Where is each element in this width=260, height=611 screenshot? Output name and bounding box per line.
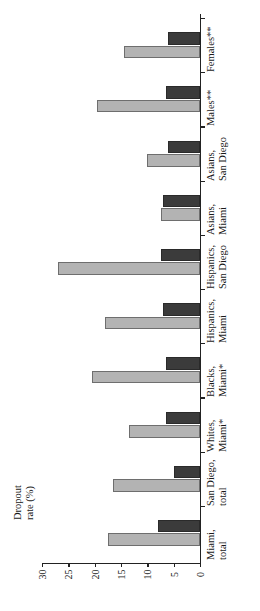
bar-light xyxy=(97,100,200,113)
value-tick-label: 10 xyxy=(142,564,153,586)
bar-light xyxy=(124,46,200,59)
bar-light xyxy=(147,154,200,167)
bar-dark xyxy=(166,412,200,425)
bar-dark xyxy=(166,357,200,370)
value-tick-label: 25 xyxy=(63,564,74,586)
chart-figure: 302520151050 Miami, totalSan Diego, tota… xyxy=(0,0,260,611)
value-tick-label: 5 xyxy=(168,564,179,586)
bar-dark xyxy=(161,249,201,262)
bar-light xyxy=(92,371,200,384)
value-axis-title: Dropout rate (%) xyxy=(12,434,36,520)
value-tick-label: 15 xyxy=(116,564,127,586)
category-label: Females** xyxy=(205,0,217,72)
bar-dark xyxy=(168,141,200,154)
bar-dark xyxy=(174,466,200,479)
bar-dark xyxy=(163,303,200,316)
value-tick-label: 30 xyxy=(37,564,48,586)
value-tick-label: 20 xyxy=(89,564,100,586)
bar-light xyxy=(113,479,200,492)
bar-light xyxy=(129,425,200,438)
bar-dark xyxy=(158,520,200,533)
plot-area: 302520151050 Miami, totalSan Diego, tota… xyxy=(0,0,260,611)
bar-dark xyxy=(168,32,200,45)
value-tick-label: 0 xyxy=(195,564,206,586)
bar-light xyxy=(161,208,201,221)
bar-light xyxy=(58,262,200,275)
bar-dark xyxy=(166,86,200,99)
bar-light xyxy=(108,533,200,546)
bar-dark xyxy=(163,195,200,208)
bar-light xyxy=(105,317,200,330)
